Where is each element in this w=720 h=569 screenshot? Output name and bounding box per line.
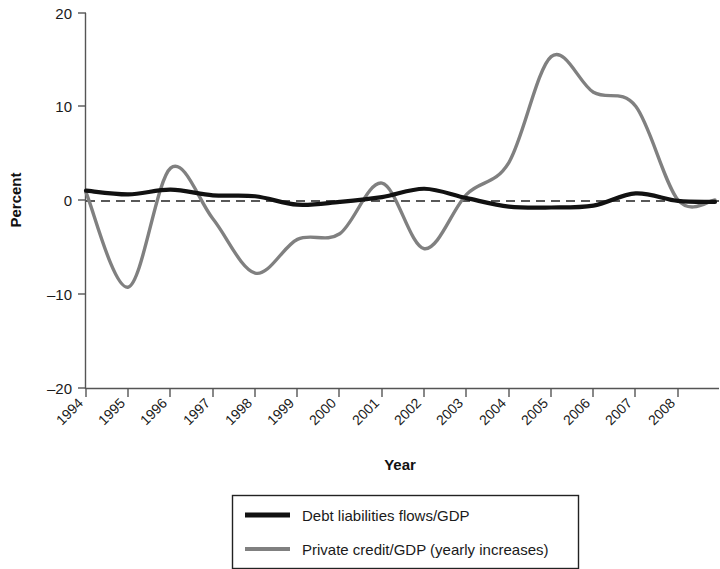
y-tick-label-20: 20 bbox=[55, 5, 72, 22]
x-tick-label-2004: 2004 bbox=[476, 395, 509, 428]
y-tick-label-10: 10 bbox=[55, 98, 72, 115]
x-tick-label-2008: 2008 bbox=[645, 395, 678, 428]
chart-figure: 20 10 0 –10 –20 Percent 1994 1 bbox=[0, 0, 720, 569]
x-tick-label-1995: 1995 bbox=[95, 395, 128, 428]
x-tick-label-1997: 1997 bbox=[180, 395, 213, 428]
x-tick-label-1998: 1998 bbox=[222, 395, 255, 428]
legend-label-debt-liabilities: Debt liabilities flows/GDP bbox=[302, 507, 470, 524]
series-line-private-credit-gdp bbox=[86, 54, 715, 287]
x-tick-label-2007: 2007 bbox=[602, 395, 635, 428]
y-tick-label-neg20: –20 bbox=[47, 380, 72, 397]
line-chart: 20 10 0 –10 –20 Percent 1994 1 bbox=[0, 0, 720, 569]
x-tick-label-2005: 2005 bbox=[518, 395, 551, 428]
y-axis-title: Percent bbox=[7, 172, 24, 227]
legend: Debt liabilities flows/GDP Private credi… bbox=[233, 496, 579, 569]
series-line-debt-liabilities-flows-gdp bbox=[86, 189, 715, 208]
x-tick-label-2002: 2002 bbox=[391, 395, 424, 428]
x-tick-label-2001: 2001 bbox=[349, 395, 382, 428]
x-tick-label-2006: 2006 bbox=[560, 395, 593, 428]
x-tick-labels: 1994 1995 1996 1997 1998 1999 2000 2001 … bbox=[53, 395, 678, 428]
y-tick-label-neg10: –10 bbox=[47, 286, 72, 303]
x-tick-label-1996: 1996 bbox=[137, 395, 170, 428]
x-tick-label-1999: 1999 bbox=[264, 395, 297, 428]
x-axis-title: Year bbox=[384, 456, 416, 473]
x-tick-label-1994: 1994 bbox=[53, 395, 86, 428]
x-tick-marks bbox=[86, 388, 678, 397]
x-tick-label-2003: 2003 bbox=[433, 395, 466, 428]
legend-label-private-credit: Private credit/GDP (yearly increases) bbox=[302, 541, 548, 558]
x-tick-label-2000: 2000 bbox=[306, 395, 339, 428]
y-tick-label-0: 0 bbox=[64, 192, 72, 209]
